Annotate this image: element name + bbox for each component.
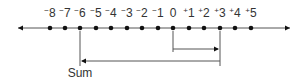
tick-sign: − <box>136 6 141 15</box>
tick-sign: − <box>105 6 110 15</box>
tick-digit: 0 <box>170 6 177 20</box>
tick-digit: 2 <box>203 6 210 20</box>
tick-dot <box>249 26 254 31</box>
tick-digit: 1 <box>188 6 195 20</box>
tick-label: +3 <box>214 6 225 22</box>
tick-label: −7 <box>59 6 70 22</box>
tick-sign: − <box>74 6 79 15</box>
tick-digit: 2 <box>141 6 148 20</box>
tick-label: −3 <box>121 6 132 22</box>
axis-left-arrow-icon <box>18 26 23 31</box>
tick-label: +4 <box>229 6 240 22</box>
tick-dot <box>109 26 114 31</box>
tick-label: +1 <box>183 6 194 22</box>
tick-sign: + <box>229 6 234 15</box>
tick-digit: 1 <box>157 6 164 20</box>
tick-digit: 8 <box>49 6 56 20</box>
tick-digit: 5 <box>250 6 257 20</box>
tick-dot <box>48 26 53 31</box>
tick-sign: + <box>198 6 203 15</box>
tick-dot <box>156 26 161 31</box>
tick-dot <box>63 26 68 31</box>
step2-arrowhead-icon <box>81 59 86 64</box>
tick-label: −6 <box>74 6 85 22</box>
tick-dot <box>140 26 145 31</box>
tick-sign: + <box>183 6 188 15</box>
sum-label: Sum <box>68 66 93 80</box>
tick-digit: 4 <box>110 6 117 20</box>
tick-sign: − <box>90 6 95 15</box>
tick-dot <box>202 26 207 31</box>
tick-label: −5 <box>90 6 101 22</box>
tick-dot <box>78 26 83 31</box>
tick-digit: 4 <box>234 6 241 20</box>
tick-sign: − <box>152 6 157 15</box>
tick-digit: 3 <box>219 6 226 20</box>
tick-dot <box>125 26 130 31</box>
tick-sign: + <box>245 6 250 15</box>
tick-label: −4 <box>105 6 116 22</box>
tick-label: +2 <box>198 6 209 22</box>
tick-dot <box>218 26 223 31</box>
tick-label: −1 <box>152 6 163 22</box>
tick-dot <box>94 26 99 31</box>
tick-digit: 3 <box>126 6 133 20</box>
tick-dot <box>171 26 176 31</box>
tick-sign: − <box>59 6 64 15</box>
tick-label: +5 <box>245 6 256 22</box>
tick-dot <box>233 26 238 31</box>
tick-label: −8 <box>44 6 55 22</box>
axis-right-arrow-icon <box>285 26 290 31</box>
step1-arrowhead-icon <box>214 47 219 52</box>
tick-digit: 6 <box>79 6 86 20</box>
tick-digit: 7 <box>64 6 71 20</box>
tick-dot <box>187 26 192 31</box>
tick-label: 0 <box>170 6 177 20</box>
tick-digit: 5 <box>95 6 102 20</box>
number-line-diagram: −8−7−6−5−4−3−2−10+1+2+3+4+5 Sum <box>0 0 304 84</box>
tick-sign: + <box>214 6 219 15</box>
tick-sign: − <box>121 6 126 15</box>
tick-sign: − <box>44 6 49 15</box>
tick-label: −2 <box>136 6 147 22</box>
